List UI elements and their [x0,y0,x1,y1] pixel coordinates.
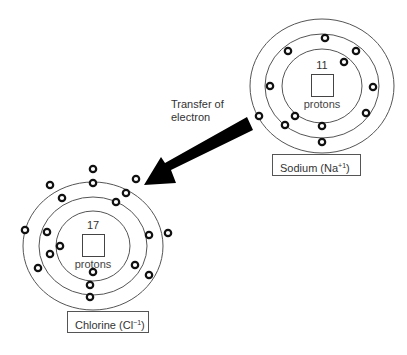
electron [319,139,325,145]
electron [282,122,288,128]
electron [285,48,291,54]
diagram-canvas [0,0,407,355]
sodium-nucleus-box [311,74,334,97]
electron [341,59,347,65]
electron [322,35,328,41]
transfer-label-line1: Transfer of [171,98,224,111]
electron [44,229,50,235]
electron [133,176,139,182]
ionic-bond-diagram: 11 protons 17 protons Transfer of electr… [0,0,407,355]
chlorine-electrons [22,166,171,300]
transfer-arrow-icon [144,117,253,185]
electron [47,182,53,188]
transfer-label-line2: electron [171,111,224,124]
electron [353,48,359,54]
electron [47,251,53,257]
electron [146,232,152,238]
electron [113,199,119,205]
electron [370,84,376,90]
sodium-proton-count: 11 [307,59,337,71]
electron [319,123,325,129]
electron [363,110,369,116]
electron [59,195,65,201]
electron [165,230,171,236]
electron [256,113,262,119]
electron [87,282,93,288]
electron [267,83,273,89]
electron [90,166,96,172]
electron [57,243,63,249]
chlorine-nucleus-box [82,234,105,257]
sodium-label: Sodium (Na+1) [272,154,361,176]
electron [35,265,41,271]
electron [146,272,152,278]
chlorine-proton-label: protons [68,258,118,270]
electron [22,227,28,233]
chlorine-proton-count: 17 [78,219,108,231]
electron [292,113,298,119]
electron [87,294,93,300]
electron [132,262,138,268]
chlorine-label: Chlorine (Cl−1) [67,311,149,333]
electron [90,180,96,186]
transfer-label: Transfer of electron [171,98,224,124]
sodium-proton-label: protons [297,98,347,110]
electron [123,190,129,196]
